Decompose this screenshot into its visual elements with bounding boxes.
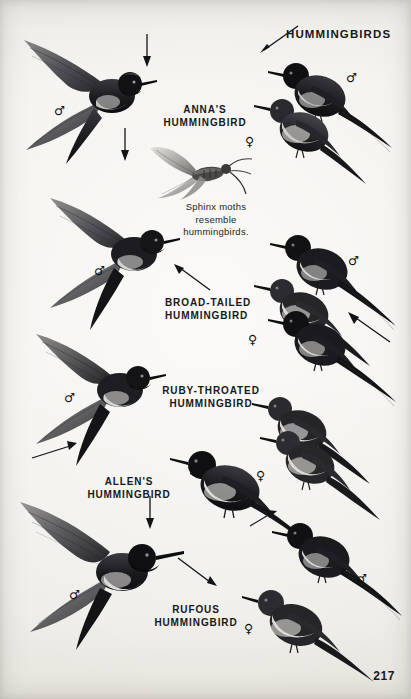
sex-symbol-male-broad-tailed-perched: ♂	[348, 255, 359, 268]
sex-symbol-male-rufous-perched: ♂	[356, 573, 367, 586]
sex-symbol-female-broad-tailed: ♀	[248, 334, 257, 347]
sex-symbol-female-ruby-throated: ♀	[256, 470, 265, 483]
species-label-rufous-line2: HUMMINGBIRD	[140, 616, 252, 629]
pointer-arrow-ruby-throated-tail	[30, 438, 78, 464]
species-label-allens-line1: ALLEN'S	[72, 475, 186, 488]
pointer-arrow-allens-female	[248, 508, 278, 530]
species-label-broad-tailed-line2: HUMMINGBIRD	[165, 309, 275, 322]
sex-symbol-male-annas-hovering: ♂	[54, 105, 65, 118]
pointer-arrow-annas-gorget	[118, 128, 132, 162]
pointer-arrow-broad-tailed-tail	[344, 310, 392, 344]
bird-annas-female	[252, 88, 370, 198]
sphinx-moth-caption-line2: resemble	[168, 214, 264, 227]
bird-annas-male-hovering	[8, 36, 158, 171]
species-label-allens-line2: HUMMINGBIRD	[72, 488, 186, 501]
sex-symbol-male-broad-tailed-hovering: ♂	[94, 265, 105, 278]
species-label-annas: ANNA'S HUMMINGBIRD	[155, 103, 255, 129]
page-number: 217	[373, 669, 395, 683]
sphinx-moth-caption: Sphinx moths resemble hummingbirds.	[168, 201, 264, 239]
bird-rufous-male-hovering	[6, 498, 186, 653]
sex-symbol-male-rufous-hovering: ♂	[69, 589, 80, 602]
species-label-ruby-throated-line1: RUBY-THROATED	[152, 384, 270, 397]
species-label-rufous-line1: RUFOUS	[140, 603, 252, 616]
sphinx-moth-illustration	[148, 140, 258, 210]
pointer-arrow-annas-crown	[140, 34, 154, 68]
sex-symbol-female-annas: ♀	[245, 136, 254, 149]
species-label-broad-tailed-line1: BROAD-TAILED	[165, 296, 275, 309]
pointer-arrow-rufous-back	[176, 556, 220, 588]
species-label-annas-line1: ANNA'S	[155, 103, 255, 116]
sex-symbol-male-annas-perched: ♂	[346, 72, 357, 85]
sphinx-moth-caption-line3: hummingbirds.	[168, 226, 264, 239]
species-label-allens: ALLEN'S HUMMINGBIRD	[72, 475, 186, 501]
sex-symbol-male-ruby-throated: ♂	[64, 392, 75, 405]
pointer-arrow-broad-tailed-male	[170, 262, 212, 292]
pointer-arrow-allens-back	[142, 496, 158, 530]
species-label-broad-tailed: BROAD-TAILED HUMMINGBIRD	[165, 296, 275, 322]
page-header-title: HUMMINGBIRDS	[286, 28, 391, 40]
species-label-ruby-throated-line2: HUMMINGBIRD	[152, 397, 270, 410]
sex-symbol-female-rufous: ♀	[244, 623, 253, 636]
species-label-ruby-throated: RUBY-THROATED HUMMINGBIRD	[152, 384, 270, 410]
bird-rufous-female	[238, 578, 378, 688]
sphinx-moth-caption-line1: Sphinx moths	[168, 201, 264, 214]
field-guide-page: HUMMINGBIRDS ANNA'S HUMMINGBIRD Sphinx m…	[0, 0, 411, 699]
species-label-rufous: RUFOUS HUMMINGBIRD	[140, 603, 252, 629]
species-label-annas-line2: HUMMINGBIRD	[155, 116, 255, 129]
